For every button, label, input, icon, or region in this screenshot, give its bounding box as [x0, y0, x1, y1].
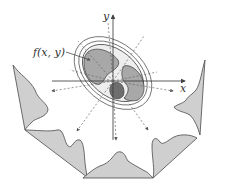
- y-axis-label: y: [102, 10, 110, 23]
- x-axis-label: x: [180, 82, 187, 95]
- projection-bottom-right: [152, 135, 197, 178]
- projection-bottom: [83, 152, 153, 178]
- projection-right: [174, 60, 205, 135]
- function-label: f(x, y): [32, 46, 65, 59]
- projection-left: [13, 65, 48, 130]
- radon-projection-diagram: f(x, y) x y: [0, 0, 225, 191]
- projection-bottom-left: [25, 130, 87, 177]
- organ-dark: [110, 82, 124, 98]
